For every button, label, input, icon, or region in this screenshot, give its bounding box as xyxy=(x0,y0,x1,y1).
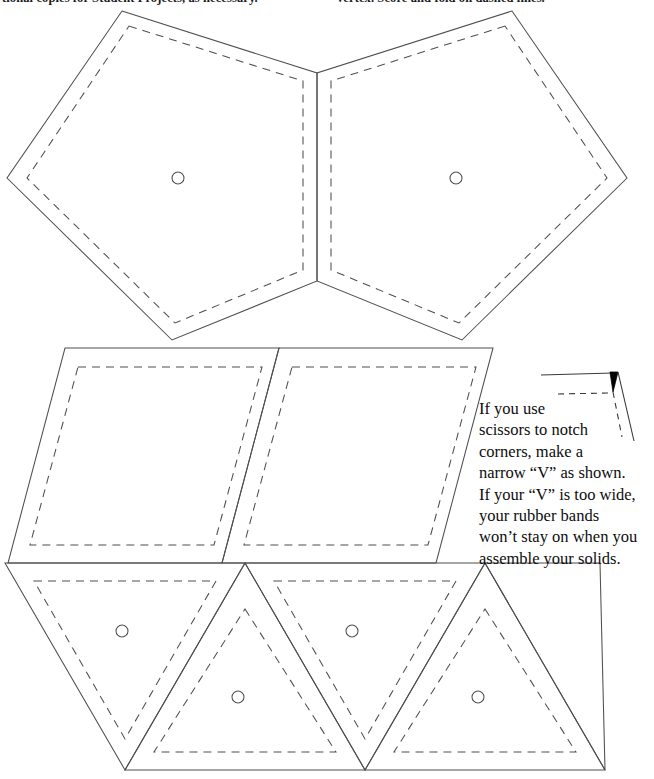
triangle-4-up-center-hole xyxy=(472,691,484,703)
caption-line-7: assemble your solids. xyxy=(479,548,654,569)
worksheet-page: tional copies for Student Projects, as n… xyxy=(0,0,654,779)
caption-line-1: scissors to notch xyxy=(479,419,654,440)
net-shape-layer xyxy=(5,11,627,770)
triangle-3-down-center-hole xyxy=(346,625,358,637)
pentagon-right xyxy=(317,11,627,340)
caption-line-2: corners, make a xyxy=(479,441,654,462)
pentagon-right-fold-line xyxy=(331,26,607,323)
rhombus-right-fold-line xyxy=(244,367,476,545)
pentagon-left-cut-outline xyxy=(7,11,317,340)
caption-line-0: If you use xyxy=(479,398,654,419)
rhombus-left xyxy=(8,348,279,563)
rhombus-left-cut-outline xyxy=(8,348,279,563)
notch-dashed-fold-line xyxy=(558,393,609,394)
triangle-4-up-fold-line xyxy=(394,609,576,752)
triangle-2-up xyxy=(125,563,365,770)
triangle-2-up-cut-outline xyxy=(125,563,365,770)
notch-wedge-fill xyxy=(610,372,618,392)
triangle-5-down xyxy=(485,563,605,770)
triangle-1-down-center-hole xyxy=(116,625,128,637)
rhombus-left-fold-line xyxy=(30,367,262,545)
pentagon-left-center-hole xyxy=(172,172,184,184)
pentagon-left-fold-line xyxy=(27,26,303,323)
triangle-5-down-cut-outline xyxy=(485,563,605,770)
pentagon-right-cut-outline xyxy=(317,11,627,340)
caption-line-5: your rubber bands xyxy=(479,505,654,526)
triangle-4-up-cut-outline xyxy=(365,563,605,770)
polyhedron-net-drawing xyxy=(0,0,654,779)
notch-solid-top-edge xyxy=(541,373,613,375)
pentagon-right-center-hole xyxy=(450,172,462,184)
pentagon-left xyxy=(7,11,317,340)
rhombus-right-cut-outline xyxy=(222,348,493,563)
caption-line-4: If your “V” is too wide, xyxy=(479,484,654,505)
rhombus-right xyxy=(222,348,493,563)
triangle-4-up xyxy=(365,563,605,770)
triangle-2-up-center-hole xyxy=(232,691,244,703)
triangle-2-up-fold-line xyxy=(154,609,336,752)
caption-line-6: won’t stay on when you xyxy=(479,526,654,547)
caption-line-3: narrow “V” as shown. xyxy=(479,462,654,483)
notch-instruction-caption: If you usescissors to notchcorners, make… xyxy=(479,398,654,569)
